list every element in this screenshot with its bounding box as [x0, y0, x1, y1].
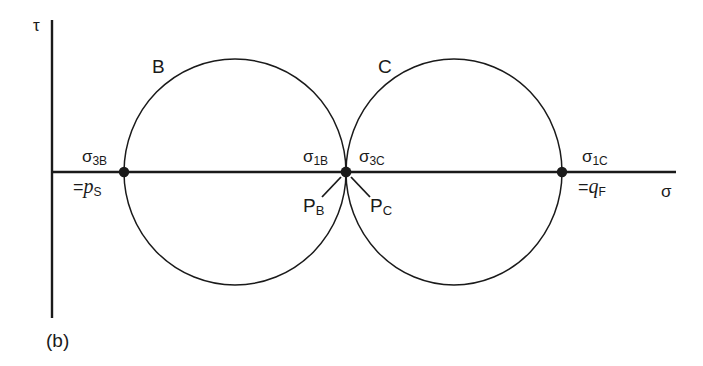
qf-subscript: F	[599, 185, 606, 199]
sigma-3b-symbol: σ	[82, 147, 93, 166]
panel-label: (b)	[46, 331, 69, 350]
pc-symbol: P	[370, 195, 383, 216]
sigma-3b-label: σ3B	[82, 148, 107, 165]
equals-qf-label: =qF	[578, 176, 606, 196]
sigma-1c-subscript: 1C	[593, 154, 608, 168]
pc-subscript: C	[383, 203, 392, 218]
sigma-1c-label: σ1C	[582, 148, 607, 165]
sigma-3c-subscript: 3C	[370, 154, 385, 168]
circle-c-label: C	[378, 57, 392, 76]
tau-axis-label: τ	[33, 17, 40, 34]
point-sigma-1c	[557, 167, 567, 177]
pb-subscript: B	[316, 203, 325, 218]
sigma-1b-subscript: 1B	[314, 154, 328, 168]
ps-symbol: p	[84, 175, 94, 197]
leader-line-pb	[322, 177, 341, 197]
pb-symbol: P	[303, 195, 316, 216]
point-pc-label: PC	[370, 196, 392, 215]
equals-ps-label: =pS	[73, 176, 102, 196]
point-sigma-3b	[119, 167, 129, 177]
mohr-circle-figure: τ σ B C σ3B =pS σ1B σ3C σ1C =qF PB PC (b…	[0, 0, 703, 366]
circle-b-label: B	[152, 57, 165, 76]
equals-sign-qf: =	[578, 177, 589, 197]
ps-subscript: S	[94, 185, 102, 199]
sigma-axis-label: σ	[661, 183, 672, 200]
equals-sign-ps: =	[73, 177, 84, 197]
sigma-1b-label: σ1B	[303, 148, 328, 165]
point-sigma-1b-3c	[341, 167, 352, 178]
sigma-1b-symbol: σ	[303, 147, 314, 166]
qf-symbol: q	[589, 175, 599, 197]
sigma-1c-symbol: σ	[582, 147, 593, 166]
sigma-3b-subscript: 3B	[93, 154, 107, 168]
leader-line-pc	[351, 177, 370, 197]
sigma-3c-symbol: σ	[359, 147, 370, 166]
sigma-3c-label: σ3C	[359, 148, 384, 165]
point-pb-label: PB	[303, 196, 324, 215]
